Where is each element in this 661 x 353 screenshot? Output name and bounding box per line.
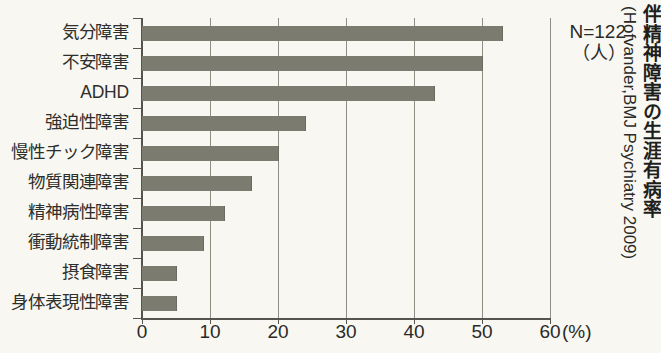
category-label: ADHD xyxy=(0,78,136,108)
bar xyxy=(142,176,252,191)
category-label: 衝動統制障害 xyxy=(0,228,136,258)
chart-citation-vertical: (Hofvander,BMJ Psychiatry 2009) xyxy=(621,6,638,259)
sample-size-unit: （人） xyxy=(556,42,626,65)
bar xyxy=(142,56,483,71)
bar-row xyxy=(142,258,550,288)
category-label: 気分障害 xyxy=(0,18,136,48)
bar-row xyxy=(142,228,550,258)
sample-size-value: N=122 xyxy=(556,22,626,42)
category-label: 物質関連障害 xyxy=(0,168,136,198)
y-tick xyxy=(133,228,142,229)
bar-row xyxy=(142,168,550,198)
plot-area xyxy=(142,18,550,318)
bar-row xyxy=(142,138,550,168)
x-tick-label: 20 xyxy=(267,322,288,341)
bar-row xyxy=(142,78,550,108)
bar xyxy=(142,146,279,161)
x-axis-unit-label: (%) xyxy=(562,322,592,341)
y-tick xyxy=(133,138,142,139)
bar xyxy=(142,26,503,41)
y-tick xyxy=(133,198,142,199)
y-tick xyxy=(133,18,142,19)
bar xyxy=(142,296,177,311)
category-label: 精神病性障害 xyxy=(0,198,136,228)
sample-size-annotation: N=122 （人） xyxy=(556,22,626,65)
gridline xyxy=(550,18,551,318)
y-tick xyxy=(133,318,142,319)
bar-row xyxy=(142,288,550,318)
x-tick-label: 50 xyxy=(471,322,492,341)
bar-row xyxy=(142,48,550,78)
category-label: 摂食障害 xyxy=(0,258,136,288)
bar-row xyxy=(142,18,550,48)
bar-row xyxy=(142,108,550,138)
y-tick xyxy=(133,288,142,289)
x-tick-label: 10 xyxy=(199,322,220,341)
y-tick xyxy=(133,258,142,259)
bar xyxy=(142,86,435,101)
chart-title-vertical: 伴精神障害の生涯有病率 xyxy=(641,4,660,219)
category-label: 不安障害 xyxy=(0,48,136,78)
y-tick xyxy=(133,168,142,169)
bar-series xyxy=(142,18,550,318)
category-label: 強迫性障害 xyxy=(0,108,136,138)
bar xyxy=(142,116,306,131)
bar xyxy=(142,236,204,251)
category-axis-labels: 気分障害 不安障害 ADHD 強迫性障害 慢性チック障害 物質関連障害 精神病性… xyxy=(0,18,136,318)
x-tick-label: 60 xyxy=(539,322,560,341)
x-tick-label: 0 xyxy=(137,322,148,341)
category-label: 身体表現性障害 xyxy=(0,288,136,318)
x-axis-tick-labels: 0102030405060 xyxy=(142,322,550,350)
y-tick xyxy=(133,48,142,49)
bar xyxy=(142,266,177,281)
y-tick xyxy=(133,78,142,79)
x-tick-label: 40 xyxy=(403,322,424,341)
bar-row xyxy=(142,198,550,228)
bar xyxy=(142,206,225,221)
y-tick xyxy=(133,108,142,109)
category-label: 慢性チック障害 xyxy=(0,138,136,168)
x-tick-label: 30 xyxy=(335,322,356,341)
